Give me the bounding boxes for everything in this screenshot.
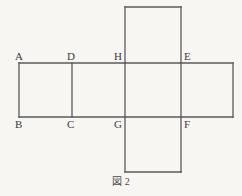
vertex-label-c: C	[67, 119, 74, 130]
vertex-label-d: D	[67, 51, 75, 62]
vertex-label-g: G	[114, 119, 122, 130]
vertex-label-b: B	[15, 119, 22, 130]
vertex-label-a: A	[15, 51, 23, 62]
cube-net-drawing	[0, 0, 242, 196]
vertex-label-f: F	[184, 119, 190, 130]
figure-caption: 図 2	[0, 176, 242, 188]
vertex-label-e: E	[184, 51, 191, 62]
net-outline-group	[19, 7, 233, 172]
figure-container: A D H E B C G F 図 2	[0, 0, 242, 196]
vertex-label-h: H	[114, 51, 122, 62]
